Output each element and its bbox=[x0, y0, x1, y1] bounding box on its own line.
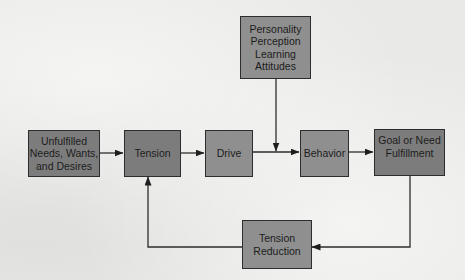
box-influences: Personality Perception Learning Attitude… bbox=[240, 16, 311, 79]
box-influences-label: Personality Perception Learning Attitude… bbox=[250, 23, 302, 73]
arrow-goal-to-tension-reduction bbox=[312, 175, 410, 247]
arrow-tension-reduction-to-tension bbox=[148, 177, 242, 247]
box-tension-reduction-label: Tension Reduction bbox=[253, 232, 300, 257]
box-goal-fulfillment-label: Goal or Need Fulfillment bbox=[378, 134, 440, 159]
box-unfulfilled-needs-label: Unfulfilled Needs, Wants, and Desires bbox=[30, 135, 98, 173]
box-behavior: Behavior bbox=[300, 130, 349, 177]
box-tension: Tension bbox=[124, 130, 181, 177]
box-drive-label: Drive bbox=[217, 147, 242, 160]
box-drive: Drive bbox=[205, 130, 253, 177]
box-tension-label: Tension bbox=[134, 147, 170, 160]
box-behavior-label: Behavior bbox=[304, 147, 345, 160]
box-unfulfilled-needs: Unfulfilled Needs, Wants, and Desires bbox=[28, 130, 100, 177]
box-tension-reduction: Tension Reduction bbox=[242, 220, 312, 269]
box-goal-fulfillment: Goal or Need Fulfillment bbox=[374, 129, 445, 176]
